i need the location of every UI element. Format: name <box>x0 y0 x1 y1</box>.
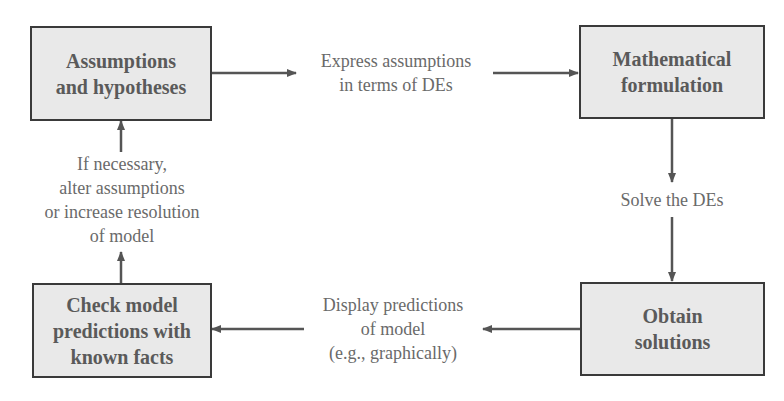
box-solutions-label: Obtain solutions <box>635 303 711 355</box>
edge-label-solve-the-des: Solve the DEs <box>602 188 742 212</box>
box-obtain-solutions: Obtain solutions <box>580 282 765 376</box>
box-check-model-predictions: Check model predictions with known facts <box>32 283 212 378</box>
edge-label-display-predictions: Display predictions of model (e.g., grap… <box>298 293 488 365</box>
edge-label-alter-assumptions: If necessary, alter assumptions or incre… <box>22 152 222 248</box>
box-mathematical-formulation: Mathematical formulation <box>579 25 765 119</box>
box-check-label: Check model predictions with known facts <box>53 292 191 370</box>
edge-label-express-assumptions: Express assumptions in terms of DEs <box>296 49 496 97</box>
box-formulation-label: Mathematical formulation <box>613 46 732 98</box>
box-assumptions-and-hypotheses: Assumptions and hypotheses <box>30 26 212 121</box>
box-assumptions-label: Assumptions and hypotheses <box>56 48 187 100</box>
